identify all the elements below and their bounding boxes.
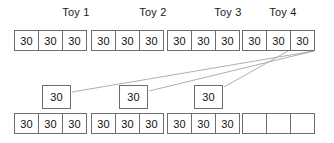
value-cell: 30 xyxy=(14,30,39,51)
value-cell: 30 xyxy=(167,30,192,51)
value-cell: 30 xyxy=(290,30,315,51)
toy-distribution-diagram: Toy 1Toy 2Toy 3Toy 4 3030303030303030303… xyxy=(0,0,334,143)
value-cell: 30 xyxy=(266,30,291,51)
value-cell: 30 xyxy=(242,30,267,51)
connector-line-1 xyxy=(72,51,314,92)
value-cell: 30 xyxy=(215,30,240,51)
value-cell: 30 xyxy=(115,30,140,51)
toy-1: 303030 xyxy=(14,30,87,51)
bottom-group-4 xyxy=(242,113,315,134)
toy-label-1: Toy 1 xyxy=(36,6,116,18)
toy-label-2: Toy 2 xyxy=(113,6,193,18)
connector-line-3 xyxy=(224,51,288,87)
value-cell: 30 xyxy=(91,30,116,51)
empty-cell xyxy=(266,113,291,134)
value-cell: 30 xyxy=(191,113,216,134)
middle-box-3: 30 xyxy=(194,85,223,109)
toy-3: 303030 xyxy=(167,30,240,51)
empty-cell xyxy=(290,113,315,134)
value-cell: 30 xyxy=(167,113,192,134)
value-cell: 30 xyxy=(91,113,116,134)
value-cell: 30 xyxy=(139,30,164,51)
bottom-group-2: 303030 xyxy=(91,113,164,134)
value-cell: 30 xyxy=(38,113,63,134)
value-cell: 30 xyxy=(115,113,140,134)
middle-box-1: 30 xyxy=(42,85,71,109)
middle-box-2: 30 xyxy=(119,85,148,109)
value-cell: 30 xyxy=(14,113,39,134)
value-cell: 30 xyxy=(62,30,87,51)
empty-cell xyxy=(242,113,267,134)
bottom-group-1: 303030 xyxy=(14,113,87,134)
toy-4: 303030 xyxy=(242,30,315,51)
value-cell: 30 xyxy=(191,30,216,51)
value-cell: 30 xyxy=(215,113,240,134)
value-cell: 30 xyxy=(62,113,87,134)
bottom-group-3: 303030 xyxy=(167,113,240,134)
connector-line-2 xyxy=(149,51,314,91)
toy-2: 303030 xyxy=(91,30,164,51)
value-cell: 30 xyxy=(38,30,63,51)
value-cell: 30 xyxy=(139,113,164,134)
toy-label-4: Toy 4 xyxy=(243,6,323,18)
